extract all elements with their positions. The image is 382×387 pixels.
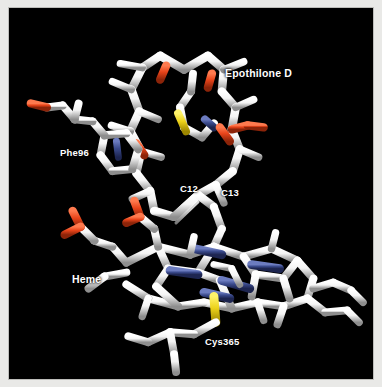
cys365-backbone	[128, 322, 216, 372]
molecular-scene	[9, 8, 373, 379]
phe96-backbone	[47, 103, 105, 135]
oxygen-atoms-epothilone	[136, 66, 263, 156]
nitrogen-atom-thiazole	[194, 119, 214, 127]
heme-propionate-oxygens	[65, 201, 141, 235]
phe96-carbonyl-oxygen	[31, 103, 47, 107]
epothilone-heme-linker	[214, 207, 222, 247]
residue-phe96	[31, 103, 138, 171]
figure-root: Epothilone D Phe96 C12 C13 Heme Cys365	[0, 0, 382, 387]
structure-panel: Epothilone D Phe96 C12 C13 Heme Cys365	[8, 7, 374, 380]
phe96-amide-nitrogen	[116, 141, 118, 157]
